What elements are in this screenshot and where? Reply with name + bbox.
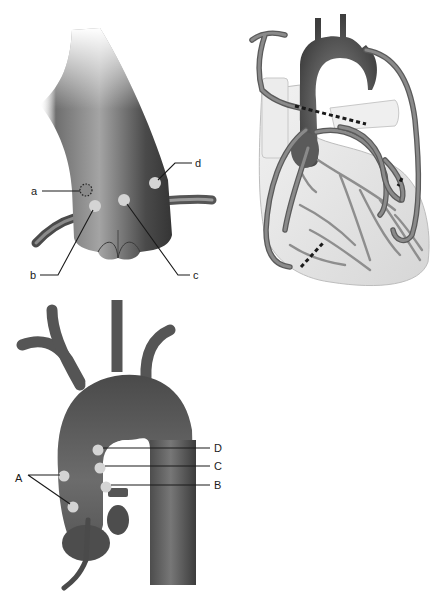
panel-aortic-arch: A B C D [15,300,222,588]
anatomy-figure: a b c d [0,0,446,606]
label-b: b [30,269,36,281]
site-c-marker [118,194,130,206]
site-C-marker [95,463,106,474]
label-C: C [214,460,222,472]
site-b-marker [89,200,101,212]
site-a-marker [80,184,92,196]
label-c: c [193,269,199,281]
label-A: A [15,472,23,484]
label-B: B [214,479,221,491]
label-a: a [31,185,38,197]
label-D: D [214,442,222,454]
left-subclavian-branch [146,330,170,378]
descending-aorta [150,440,196,585]
site-A1-marker [59,471,70,482]
label-d: d [195,157,201,169]
site-D-marker [93,445,104,456]
vessel-stub [108,488,128,497]
panel-heart-grafts [252,14,429,286]
panel-aortic-root: a b c d [30,28,212,281]
site-B-marker [101,482,112,493]
